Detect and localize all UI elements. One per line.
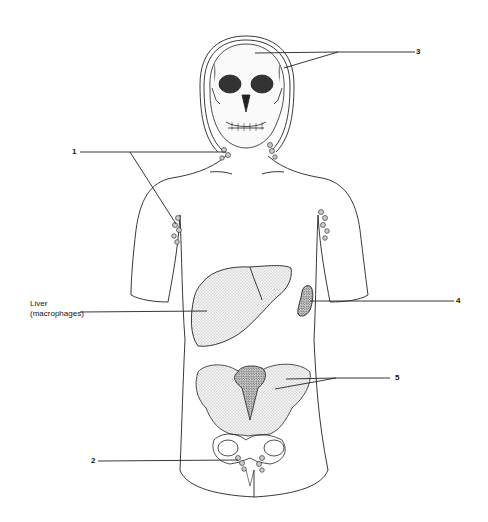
liver — [191, 266, 291, 347]
label-4: 4 — [456, 296, 460, 306]
skull — [210, 44, 284, 148]
label-5: 5 — [395, 373, 399, 383]
label-liver-detail: (macrophages) — [30, 309, 84, 319]
label-liver-name: Liver — [30, 299, 47, 309]
anatomy-diagram — [0, 0, 488, 522]
inguinal-lymph-nodes — [236, 456, 265, 487]
axillary-lymph-nodes — [172, 210, 330, 245]
label-3: 3 — [416, 47, 420, 57]
label-2: 2 — [91, 456, 95, 466]
label-1: 1 — [72, 147, 76, 157]
